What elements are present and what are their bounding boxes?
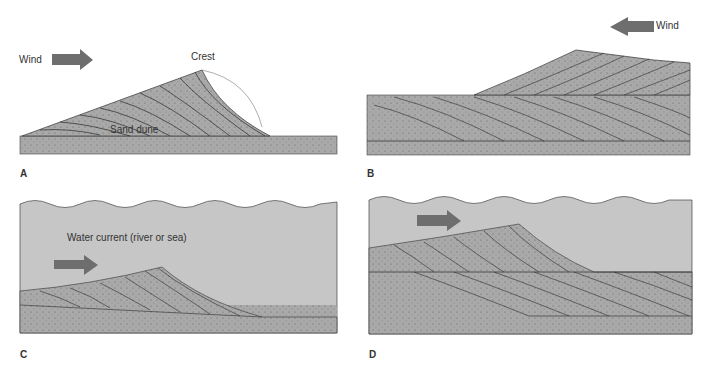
lower-bed <box>367 95 690 155</box>
panel-a: Wind Crest Sand dune A <box>0 0 354 185</box>
dune-body <box>474 50 690 95</box>
wind-label: Wind <box>19 54 42 65</box>
wind-arrow-icon <box>610 17 654 36</box>
current-label: Water current (river or sea) <box>67 232 187 243</box>
panel-d: D <box>354 185 708 369</box>
panel-label-d: D <box>369 349 376 360</box>
wind-label: Wind <box>656 20 679 31</box>
panel-label-b: B <box>367 168 374 179</box>
panel-label-c: C <box>20 349 27 360</box>
wind-arrow-icon <box>52 49 93 70</box>
panel-label-a: A <box>20 168 27 179</box>
panel-c: Water current (river or sea) C <box>0 185 354 369</box>
panel-b: Wind B <box>354 0 708 185</box>
crest-label: Crest <box>191 51 215 62</box>
sand-dune-label: Sand dune <box>110 124 159 135</box>
ground-base <box>20 136 337 154</box>
